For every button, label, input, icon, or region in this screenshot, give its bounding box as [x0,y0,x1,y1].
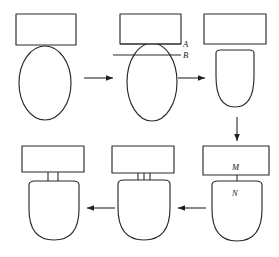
panel-1-rectangle [16,14,76,45]
panel-2-rectangle [120,14,181,44]
panel-4-group: M N [203,146,269,241]
arrow-2-right [178,75,205,81]
panel-5-group [112,146,174,240]
label-m: M [231,162,240,172]
arrow-4-left [178,205,206,211]
diagram-canvas: A B M N [0,0,279,257]
arrow-5-left [87,205,115,211]
label-b: B [183,50,188,60]
panel-3-group [204,14,266,107]
panel-3-oval [216,50,254,107]
panel-2-group: A B [113,14,189,121]
panel-1-group [16,14,76,120]
panel-3-rectangle [204,14,266,44]
process-flow-diagram: A B M N [0,0,279,257]
panel-6-group [22,146,84,240]
arrow-1-right [84,75,113,81]
panel-6-rectangle [22,146,84,172]
panel-5-rectangle [112,146,174,173]
panel-1-ellipse [19,46,71,120]
panel-5-oval [118,180,170,240]
label-a: A [182,39,189,49]
panel-6-oval [29,181,79,240]
arrow-3-down [234,117,240,141]
